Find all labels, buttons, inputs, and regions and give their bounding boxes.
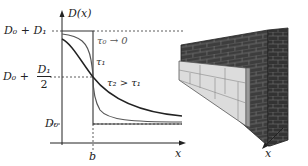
x-axis-arrow-icon: [179, 141, 186, 146]
wall-x-label: x: [265, 148, 271, 159]
x-axis-label: x: [175, 148, 181, 159]
level-mid-prefix: D₀ +: [3, 71, 29, 82]
curve-label-tau0: τ₀ → 0: [97, 36, 128, 46]
fraction-bar: [37, 76, 51, 77]
curve-label-tau2: τ₂ > τ₁: [107, 78, 141, 88]
level-mid-numerator: D₁: [36, 64, 52, 75]
wall-illustration: [179, 28, 288, 149]
level-bottom-label: D₀: [45, 118, 58, 129]
level-top-label: D₀ + D₁: [4, 25, 47, 36]
level-lines: [50, 31, 184, 152]
level-mid-denominator: 2: [36, 79, 52, 90]
curve-label-tau1: τ₁: [96, 57, 106, 67]
y-axis-arrow-icon: [60, 10, 65, 17]
y-axis-label: D(x): [68, 8, 92, 19]
x-tick-b: b: [89, 151, 96, 162]
